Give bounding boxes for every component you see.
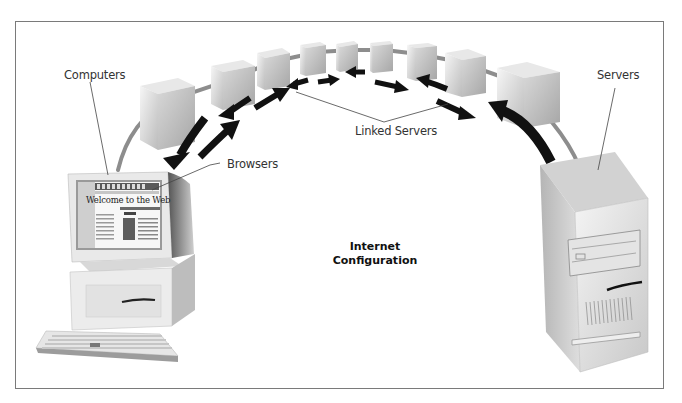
server-cube (445, 49, 486, 97)
keyboard (36, 331, 178, 362)
arrow-icon (375, 80, 409, 93)
linked-servers-callout-line (296, 92, 448, 122)
browsers-label: Browsers (227, 157, 278, 171)
arrow-icon (255, 88, 290, 108)
monitor (68, 172, 194, 262)
arrow-icon (437, 101, 476, 120)
linked-servers (140, 41, 560, 150)
servers-label: Servers (597, 68, 639, 82)
diagram-title: Internet Configuration (330, 240, 420, 268)
server-cube (370, 41, 393, 73)
server-cube (257, 48, 290, 90)
server-cube (300, 42, 326, 76)
arrow-icon (318, 74, 340, 86)
browser-headline: Welcome to the Web (86, 195, 170, 205)
title-line-1: Internet (330, 240, 420, 254)
computers-callout-line (90, 82, 108, 175)
title-line-2: Configuration (330, 254, 420, 268)
arrow-icon (200, 120, 240, 157)
linked-servers-label: Linked Servers (355, 124, 437, 138)
server-tower[interactable] (540, 152, 648, 372)
computers-label: Computers (64, 68, 125, 82)
server-cube (407, 43, 437, 81)
